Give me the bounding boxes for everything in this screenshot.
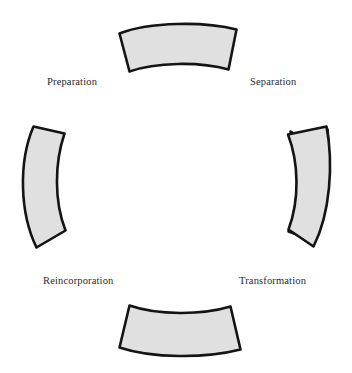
stage-label-transformation: Transformation <box>239 276 306 287</box>
cycle-diagram: Preparation Separation Reincorporation T… <box>0 0 352 373</box>
arc-segment-left[interactable] <box>23 127 66 248</box>
stage-label-separation: Separation <box>250 77 296 88</box>
stage-label-reincorporation: Reincorporation <box>43 276 113 287</box>
stage-label-preparation: Preparation <box>47 77 97 88</box>
cycle-diagram-canvas <box>0 0 352 373</box>
arc-segment-bottom[interactable] <box>120 306 241 357</box>
arc-segment-top[interactable] <box>120 24 237 72</box>
arc-segment-right-shape[interactable] <box>288 127 330 247</box>
